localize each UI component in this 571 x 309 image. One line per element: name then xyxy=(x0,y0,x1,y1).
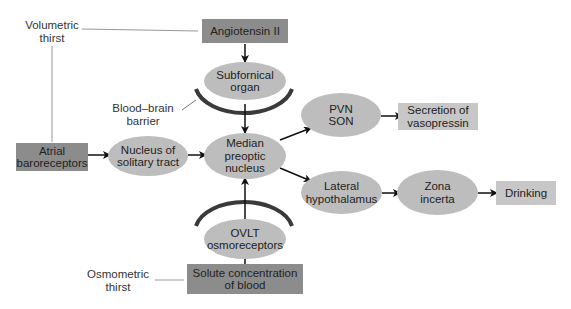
angiotensin-ii-box: Angiotensin II xyxy=(202,19,288,43)
pvn-son-node: PVN SON xyxy=(301,93,381,137)
bbb-pointer xyxy=(182,100,196,110)
nucleus-solitary-tract-node: Nucleus of solitary tract xyxy=(108,136,188,176)
volumetric-thirst-label: Volumetric thirst xyxy=(20,19,84,44)
osmometric-thirst-label: Osmometric thirst xyxy=(82,268,154,293)
lateral-hypothalamus-node: Lateral hypothalamus xyxy=(301,171,382,214)
median-preoptic-nucleus-node: Median preoptic nucleus xyxy=(204,133,286,179)
solute-concentration-box: Solute concentration of blood xyxy=(187,264,303,294)
ovlt-osmoreceptors-node: OVLT osmoreceptors xyxy=(204,219,286,259)
volumetric-connector xyxy=(82,29,198,31)
zona-incerta-node: Zona incerta xyxy=(397,170,478,215)
atrial-baroreceptors-box: Atrial baroreceptors xyxy=(16,143,88,171)
blood-brain-barrier-label: Blood–brain barrier xyxy=(108,102,178,127)
vasopressin-secretion-box: Secretion of vasopressin xyxy=(398,103,478,130)
subfornical-organ-node: Subfornical organ xyxy=(204,62,286,100)
drinking-box: Drinking xyxy=(496,181,556,205)
